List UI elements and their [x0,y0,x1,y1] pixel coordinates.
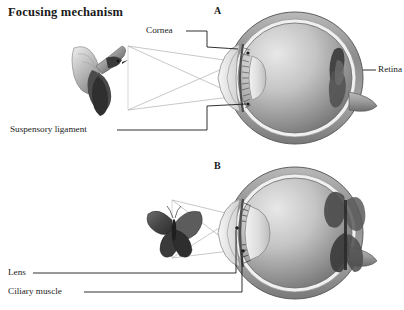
label-ciliary-muscle: Ciliary muscle [8,286,62,296]
diagram-canvas [0,0,404,310]
ciliary-marker [241,249,245,253]
lens-marker [235,226,239,230]
leader-ciliary-muscle [84,253,242,292]
butterfly-icon [147,206,202,257]
label-lens: Lens [8,267,26,277]
focusing-mechanism-figure: Focusing mechanism [0,0,404,310]
retinal-image-bird [329,48,346,108]
panel-letter-a: A [214,5,221,16]
panel-letter-b: B [214,160,221,171]
optic-nerve [349,92,377,111]
leader-cornea [186,31,238,49]
label-suspensory-ligament: Suspensory ligament [10,124,87,134]
leader-suspensory-ligament [117,104,246,130]
suspensory-attach-bottom [246,102,249,105]
label-retina: Retina [378,64,402,74]
eye-cross-section-a [218,12,377,144]
leader-lines-b [33,230,242,292]
suspensory-attach-top [246,51,249,54]
bird-icon [72,46,128,116]
label-cornea: Cornea [146,25,173,35]
